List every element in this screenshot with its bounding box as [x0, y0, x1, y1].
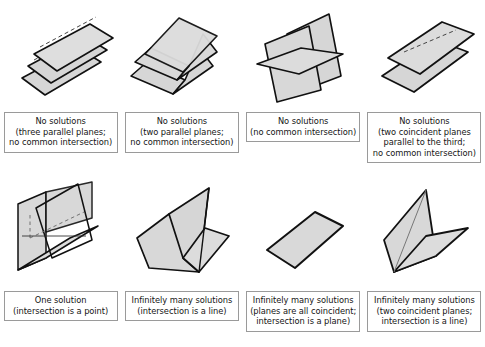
- caption-line: No solutions: [249, 116, 357, 127]
- caption-one-solution-point: One solution (intersection is a point): [4, 291, 118, 321]
- three-parallel-planes-diagram: [0, 0, 121, 106]
- case-two-coincident-line: Infinitely many solutions (two coinciden…: [364, 174, 485, 347]
- case-two-coincident-parallel-to-third: No solutions (two coincident planes para…: [364, 0, 485, 174]
- caption-line: parallel to the third;: [370, 137, 478, 148]
- case-all-coincident: Infinitely many solutions (planes are al…: [243, 174, 364, 347]
- plane-intersection-figure-grid: No solutions (three parallel planes; no …: [0, 0, 485, 347]
- caption-two-parallel-planes: No solutions (two parallel planes; no co…: [125, 112, 239, 153]
- case-three-parallel-planes: No solutions (three parallel planes; no …: [0, 0, 121, 174]
- caption-line: no common intersection): [370, 148, 478, 159]
- caption-line: no common intersection): [128, 137, 236, 148]
- caption-line: (three parallel planes;: [7, 127, 115, 138]
- two-coincident-planes-parallel-diagram: [364, 0, 485, 106]
- caption-line: Infinitely many solutions: [128, 295, 236, 306]
- caption-three-parallel-planes: No solutions (three parallel planes; no …: [4, 112, 118, 153]
- case-infinite-line: Infinitely many solutions (intersection …: [121, 174, 242, 347]
- caption-line: (two coincident planes: [370, 127, 478, 138]
- caption-line: (two parallel planes;: [128, 127, 236, 138]
- case-two-parallel-planes: No solutions (two parallel planes; no co…: [121, 0, 242, 174]
- three-planes-meeting-at-point-diagram: [0, 174, 121, 280]
- caption-line: (intersection is a point): [7, 306, 115, 317]
- three-planes-common-line-diagram: [121, 174, 242, 280]
- case-no-common-intersection: No solutions (no common intersection): [243, 0, 364, 174]
- caption-no-common-intersection: No solutions (no common intersection): [246, 112, 360, 142]
- coincident-planes-diagram: [243, 174, 364, 280]
- caption-line: intersection is a plane): [249, 316, 357, 327]
- case-one-solution-point: One solution (intersection is a point): [0, 174, 121, 347]
- two-coincident-planes-line-diagram: [364, 174, 485, 280]
- caption-line: intersection is a line): [370, 316, 478, 327]
- caption-two-coincident-parallel-to-third: No solutions (two coincident planes para…: [367, 112, 481, 163]
- caption-line: no common intersection): [7, 137, 115, 148]
- caption-line: (no common intersection): [249, 127, 357, 138]
- caption-line: No solutions: [7, 116, 115, 127]
- caption-two-coincident-line: Infinitely many solutions (two coinciden…: [367, 291, 481, 332]
- caption-line: No solutions: [128, 116, 236, 127]
- caption-line: (planes are all coincident;: [249, 306, 357, 317]
- caption-line: Infinitely many solutions: [370, 295, 478, 306]
- caption-line: Infinitely many solutions: [249, 295, 357, 306]
- caption-infinite-line: Infinitely many solutions (intersection …: [125, 291, 239, 321]
- caption-line: (two coincident planes;: [370, 306, 478, 317]
- caption-line: One solution: [7, 295, 115, 306]
- two-parallel-planes-diagram: [121, 0, 242, 106]
- caption-all-coincident: Infinitely many solutions (planes are al…: [246, 291, 360, 332]
- caption-line: (intersection is a line): [128, 306, 236, 317]
- caption-line: No solutions: [370, 116, 478, 127]
- triangular-prism-planes-diagram: [243, 0, 364, 106]
